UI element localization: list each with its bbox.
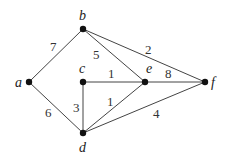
node-b [80, 26, 86, 32]
edge-weight-d-f: 4 [153, 106, 160, 121]
edge-weight-b-f: 2 [145, 42, 152, 57]
node-d [80, 130, 86, 136]
edge-d-f [83, 82, 205, 133]
node-a [26, 79, 32, 85]
edge-weight-b-e: 5 [93, 47, 100, 62]
edge-weight-c-d: 3 [73, 100, 80, 115]
node-label-d: d [79, 140, 87, 155]
node-label-e: e [146, 61, 152, 76]
edge-weight-a-b: 7 [50, 39, 57, 54]
node-c [80, 79, 86, 85]
node-f [202, 79, 208, 85]
node-e [142, 79, 148, 85]
edge-weight-c-e: 1 [108, 66, 115, 81]
node-label-b: b [79, 8, 86, 23]
graph-canvas: 765218314abcdef [0, 0, 227, 163]
node-label-c: c [79, 61, 86, 76]
node-label-f: f [211, 75, 217, 90]
edge-a-b [29, 29, 83, 82]
weighted-graph-diagram: 765218314abcdef [0, 0, 227, 163]
edge-d-e [83, 82, 145, 133]
edge-weight-e-f: 8 [165, 66, 172, 81]
edge-weight-a-d: 6 [45, 105, 52, 120]
node-label-a: a [15, 75, 22, 90]
edge-weight-d-e: 1 [107, 94, 114, 109]
edge-b-f [83, 29, 205, 82]
